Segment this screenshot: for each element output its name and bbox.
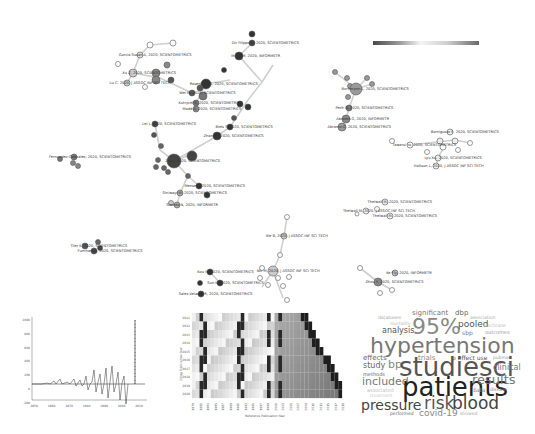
word-cloud-term: clinical	[493, 364, 521, 372]
y-tick: 200	[24, 373, 30, 377]
word-cloud-term: results	[472, 373, 516, 386]
heatmap-y-tick: 2018	[182, 375, 190, 379]
node-label: Tiler K, 2020, SCIENTOMETRICS	[69, 244, 127, 248]
heatmap-x-tick: 1995	[251, 403, 255, 411]
node-label: Xie B, 2020, J ASSOC INF SCI TECH	[266, 234, 329, 238]
y-tick: 400	[24, 359, 30, 363]
node-label: Pech G, 2020, SCIENTOMETRICS	[335, 106, 394, 110]
heatmap-y-tick: 2013	[182, 333, 190, 337]
network-nodes	[58, 31, 473, 303]
node-labels: Garcia Susan A, 2020, SCIENTOMETRICSXu Z…	[49, 41, 500, 296]
node-label: Lyu Xu, 2020, SCIENTOMETRICS	[424, 156, 482, 160]
node-label: Abramo G, 2020, SCIENTOMETRICS	[328, 125, 392, 129]
word-cloud-term: databases	[378, 316, 401, 321]
heatmap-y-tick: 2012	[182, 324, 190, 328]
node-label: Lu C, 2020, J ASSOC INF SCI TECH	[110, 81, 171, 85]
node-label: Thelwall M, 2020, SCIENTOMETRICS	[372, 214, 438, 218]
node-label: Rosenberg K, 2020, SCIENTOMETRICS	[190, 82, 259, 86]
word-cloud-term: covid-19	[419, 409, 458, 418]
word-cloud-term: cochrane	[485, 324, 506, 329]
heatmap-y-tick: 2017	[182, 367, 190, 371]
node-label: Lei L, 2020, SCIENTOMETRICS	[142, 122, 196, 126]
heatmap-x-ticks: 1979198119831985198719891991199319951997…	[191, 403, 345, 411]
y-tick: 0	[28, 387, 30, 391]
citation-heatmap: 2011201220132014201520162017201820192020…	[170, 308, 350, 423]
heatmap-y-tick: 2015	[182, 350, 190, 354]
heatmap-x-tick: 2015	[326, 403, 330, 411]
x-tick: 1950	[30, 404, 38, 408]
node-label: Xu Z, 2020, SCIENTOMETRICS	[122, 71, 177, 75]
node-label: Mense E, 2020, SCIENTOMETRICS	[184, 184, 245, 188]
heatmap-x-tick: 1987	[221, 403, 225, 411]
heatmap-y-label: Citing Publication Year	[179, 347, 183, 381]
line-chart-x-ticks: 1950196019701980199020002010	[30, 404, 143, 408]
heatmap-y-tick: 2019	[182, 384, 190, 388]
node-label: Tawarsi Ya, 2020, SCIENTOMETRICS	[392, 143, 458, 147]
node-label: Biels S, 2020, SCIENTOMETRICS	[215, 125, 273, 129]
word-cloud-term: blood	[452, 395, 499, 412]
word-cloud: significantdbpdatabasesassociationmortal…	[360, 308, 535, 416]
heatmap-x-label: Reference Publication Year	[245, 414, 286, 418]
heatmap-x-tick: 2005	[289, 403, 293, 411]
node-label: Simoes N, 2020, INFORMETR	[166, 203, 218, 207]
node-label: Nic M, 2020, J ASSOC INF SCI TECH	[257, 269, 320, 273]
heatmap-x-tick: 2011	[311, 403, 315, 411]
y-tick: 600	[24, 346, 30, 350]
node-label: Fernandez-Gonzalez, 2020, SCIENTOMETRICS	[49, 155, 132, 159]
node-label: Thelwall M, 2020, SCIENTOMETRICS	[367, 200, 433, 204]
node-label: Sun M, 2020, SCIENTOMETRICS	[207, 281, 264, 285]
heatmap-x-tick: 1989	[229, 403, 233, 411]
x-tick: 1990	[100, 404, 108, 408]
word-cloud-term: study	[363, 362, 385, 370]
word-cloud-term: pooled	[458, 320, 488, 329]
node-label: Zhu J, 2020, SCIENTOMETRICS	[165, 159, 220, 163]
word-cloud-term: disease	[490, 388, 507, 393]
heatmap-x-tick: 2001	[274, 403, 278, 411]
x-tick: 2000	[118, 404, 126, 408]
heatmap-y-ticks: 2011201220132014201520162017201820192020	[182, 316, 190, 397]
network-edges	[127, 43, 470, 298]
colorbar	[373, 41, 479, 45]
node-label: Sales-Velasco R, 2020, SCIENTOMETRICS	[179, 292, 253, 296]
node-label: Dir Filippo D, 2020, SCIENTOMETRICS	[232, 41, 300, 45]
node-label: Mund M, 2020, INFORMETR	[231, 54, 281, 58]
node-label: Zhang L, 2020, SCIENTOMETRICS	[203, 134, 264, 138]
heatmap-x-tick: 1985	[214, 403, 218, 411]
node-label: Madd A, 2020, SCIENTOMETRICS	[182, 107, 242, 111]
node-label: Furnham A, 2020, SCIENTOMETRICS	[78, 249, 144, 253]
line-chart-y-ticks: 10008006004002000-200	[22, 318, 30, 405]
line-chart: 10008006004002000-200 195019601970198019…	[22, 312, 152, 417]
node-label: Bornigusar F, 2020, SCIENTOMETRICS	[431, 130, 500, 134]
heatmap-y-tick: 2016	[182, 358, 190, 362]
heatmap-x-tick: 1983	[206, 403, 210, 411]
heatmap-x-tick: 1999	[266, 403, 270, 411]
heatmap-x-tick: 1981	[199, 403, 203, 411]
node-label: Kou M, 2020, SCIENTOMETRICS	[197, 270, 254, 274]
heatmap-y-tick: 2020	[182, 392, 190, 396]
heatmap-x-tick: 2019	[341, 403, 345, 411]
node-label: Bornmann L, 2020, SCIENTOMETRICS	[342, 87, 410, 91]
word-cloud-term: showed	[460, 412, 477, 417]
x-tick: 1960	[48, 404, 56, 408]
heatmap-x-tick: 1993	[244, 403, 248, 411]
y-tick: -200	[23, 401, 30, 405]
heatmap-x-tick: 1979	[191, 403, 195, 411]
heatmap-x-tick: 2017	[334, 403, 338, 411]
heatmap-x-tick: 1997	[259, 403, 263, 411]
word-cloud-term: performed	[390, 412, 414, 417]
node-label: Ke Fly, 2020, INFORMETR	[386, 271, 432, 275]
node-label: Garcia Susan A, 2020, SCIENTOMETRICS	[119, 53, 192, 57]
node-label: Abramo G, 2020, INFORMETR	[336, 117, 389, 121]
x-tick: 2010	[135, 404, 143, 408]
co-citation-network: Garcia Susan A, 2020, SCIENTOMETRICSXu Z…	[0, 0, 535, 310]
heatmap-cells	[192, 313, 342, 398]
node-label: Siniwayi M, 2020, SCIENTOMETRICS	[163, 191, 228, 195]
word-cloud-term: pressure	[361, 398, 421, 412]
heatmap-x-tick: 2013	[319, 403, 323, 411]
x-tick: 1970	[65, 404, 73, 408]
heatmap-x-tick: 2003	[281, 403, 285, 411]
x-tick: 1980	[83, 404, 91, 408]
heatmap-y-tick: 2011	[182, 316, 190, 320]
node-label: Wei M, 2020, SCIENTOMETRICS	[179, 91, 236, 95]
heatmap-x-tick: 2007	[296, 403, 300, 411]
